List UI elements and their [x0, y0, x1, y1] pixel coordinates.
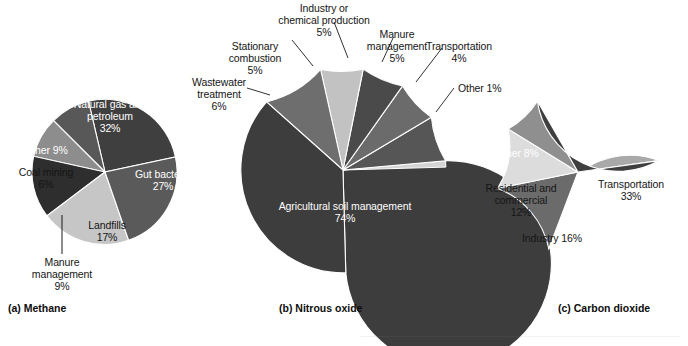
greenhouse-gas-figure: Natural gas and petroleum 32% Gut bacter… — [0, 0, 688, 346]
methane-label-manure-management: Manure management 9% — [10, 256, 114, 292]
caption-carbon-dioxide: (c) Carbon dioxide — [558, 302, 650, 314]
panel-carbon-dioxide: Electricity 31% Transportation 33% Indus… — [460, 0, 688, 346]
nitrous-oxide-label-stationary-combustion: Stationary combustion 5% — [215, 40, 295, 76]
methane-label-other: Other 9% — [9, 144, 83, 156]
carbon-dioxide-label-industry: Industry 16% — [509, 232, 595, 244]
carbon-dioxide-label-other: Other 8% — [482, 147, 552, 159]
methane-label-natural-gas-and-petroleum: Natural gas and petroleum 32% — [55, 98, 165, 134]
carbon-dioxide-label-transportation: Transportation 33% — [585, 178, 677, 202]
panel-methane: Natural gas and petroleum 32% Gut bacter… — [0, 0, 230, 346]
methane-label-landfills: Landfills 17% — [72, 219, 142, 243]
panel-nitrous-oxide: Agricultural soil management 74% Wastewa… — [230, 0, 460, 346]
page-bleed-artifact — [360, 336, 680, 337]
leader-line-stationary-combustion — [292, 40, 313, 66]
carbon-dioxide-label-residential-and-commercial: Residential and commercial 12% — [474, 182, 568, 218]
leader-line-other — [436, 88, 454, 112]
carbon-dioxide-label-electricity: Electricity 31% — [535, 96, 609, 120]
caption-methane: (a) Methane — [8, 302, 66, 314]
nitrous-oxide-label-wastewater-treatment: Wastewater treatment 6% — [187, 76, 251, 112]
caption-nitrous-oxide: (b) Nitrous oxide — [279, 302, 362, 314]
methane-label-coal-mining: Coal mining 6% — [8, 166, 84, 190]
methane-label-gut-bacteria: Gut bacteria 27% — [120, 168, 206, 192]
carbon-dioxide-slices — [498, 101, 660, 249]
nitrous-oxide-label-agricultural-soil-management: Agricultural soil management 74% — [255, 200, 435, 224]
